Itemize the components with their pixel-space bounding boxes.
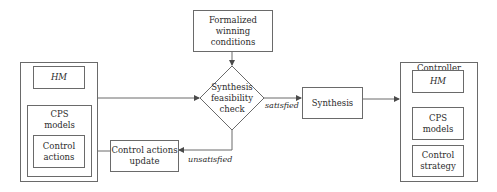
feasibility-check-line1: Synthesis (200, 82, 264, 93)
feasibility-check-line3: check (200, 104, 264, 115)
controller-hm-box: HM (412, 70, 464, 93)
feasibility-check-line2: feasibility (200, 93, 264, 104)
input-cps-label: CPS models (27, 109, 92, 131)
input-cps-line2: models (27, 120, 92, 131)
control-update-line2: update (111, 156, 177, 167)
controller-strategy-line2: strategy (420, 161, 456, 172)
feasibility-check-label: Synthesis feasibility check (200, 82, 264, 115)
input-control-actions-box: Control actions (33, 135, 85, 168)
satisfied-label: satisfied (265, 101, 299, 110)
controller-strategy-line1: Control (420, 150, 456, 161)
controller-hm-label: HM (430, 76, 446, 87)
controller-cps-line1: CPS (423, 113, 454, 124)
winning-conditions-node: Formalized winning conditions (193, 10, 273, 52)
arrow-check-to-update (179, 130, 232, 150)
synthesis-node: Synthesis (302, 87, 363, 119)
synthesis-label: Synthesis (312, 98, 353, 109)
controller-cps-box: CPS models (412, 107, 464, 140)
winning-conditions-line2: conditions (194, 37, 272, 48)
unsatisfied-label: unsatisfied (188, 155, 232, 164)
control-actions-line1: Control (43, 141, 75, 152)
controller-strategy-box: Control strategy (412, 145, 464, 177)
winning-conditions-line1: Formalized winning (194, 15, 272, 37)
input-hm-box: HM (33, 66, 85, 89)
control-actions-line2: actions (43, 152, 75, 163)
control-update-node: Control actions update (110, 140, 179, 172)
input-hm-label: HM (51, 72, 67, 83)
controller-cps-line2: models (423, 124, 454, 135)
control-update-line1: Control actions (111, 145, 177, 156)
input-cps-line1: CPS (27, 109, 92, 120)
